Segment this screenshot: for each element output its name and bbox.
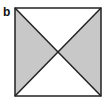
square-diagram bbox=[0, 0, 107, 97]
